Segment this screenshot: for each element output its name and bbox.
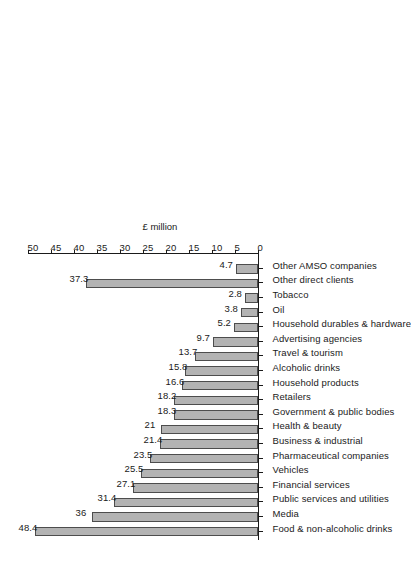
value-axis-tick-label: 10	[212, 241, 223, 252]
category-axis-tick	[259, 341, 263, 342]
category-axis-label: Vehicles	[273, 464, 309, 475]
category-axis-label: Financial services	[273, 478, 350, 489]
bar	[213, 337, 258, 347]
bar	[141, 469, 258, 479]
bar	[160, 439, 258, 449]
category-axis-label: Pharmaceutical companies	[273, 449, 389, 460]
category-axis-label: Alcoholic drinks	[273, 362, 341, 373]
category-axis-label: Government & public bodies	[273, 405, 395, 416]
category-axis-label: Business & industrial	[273, 435, 363, 446]
bar	[114, 498, 258, 508]
bar	[150, 454, 258, 464]
value-axis-tick-label: 35	[97, 241, 108, 252]
bar-value-label: 4.7	[220, 258, 234, 269]
category-axis-label: Household products	[273, 376, 359, 387]
value-axis-tick-label: 5	[235, 241, 240, 252]
bar-value-label: 18.2	[158, 390, 177, 401]
bar-value-label: 21	[145, 419, 156, 430]
bar	[174, 396, 258, 406]
bar-value-label: 36	[76, 507, 87, 518]
bar	[133, 483, 258, 493]
bar	[182, 381, 258, 391]
bar-value-label: 37.3	[70, 273, 89, 284]
value-axis-title: £ million	[143, 220, 178, 231]
category-axis-tick	[259, 531, 263, 532]
bar-value-label: 18.3	[157, 404, 176, 415]
category-axis-label: Advertising agencies	[273, 332, 363, 343]
bar	[185, 366, 258, 376]
bar	[92, 512, 258, 522]
value-axis-tick-label: 0	[258, 241, 263, 252]
bar	[174, 410, 258, 420]
bar	[245, 293, 258, 303]
category-axis-tick	[259, 443, 263, 444]
bar-value-label: 21.4	[143, 434, 162, 445]
category-axis-label: Retailers	[273, 391, 311, 402]
bar-value-label: 16.6	[165, 375, 184, 386]
value-axis-tick-label: 30	[120, 241, 131, 252]
category-axis-tick	[259, 326, 263, 327]
value-axis-tick-label: 45	[51, 241, 62, 252]
bar	[234, 323, 258, 333]
category-axis-label: Other AMSO companies	[273, 259, 377, 270]
category-axis-label: Household durables & hardware	[273, 318, 411, 329]
category-axis-label: Tobacco	[273, 289, 309, 300]
category-axis-tick	[259, 487, 263, 488]
category-axis-label: Food & non-alcoholic drinks	[273, 522, 393, 533]
bar-value-label: 5.2	[218, 317, 232, 328]
bar-value-label: 2.8	[229, 288, 243, 299]
category-axis-tick	[259, 516, 263, 517]
category-axis-tick	[259, 429, 263, 430]
category-axis-label: Media	[273, 508, 299, 519]
category-axis-label: Travel & tourism	[273, 347, 343, 358]
bar	[86, 279, 258, 289]
bar	[35, 527, 258, 537]
category-axis-tick	[259, 472, 263, 473]
category-axis-label: Public services and utilities	[273, 493, 389, 504]
value-axis-tick-label: 15	[189, 241, 200, 252]
bar-value-label: 9.7	[197, 331, 211, 342]
value-axis-tick-label: 50	[28, 241, 39, 252]
bar-value-label: 23.5	[133, 448, 152, 459]
category-axis-tick	[259, 370, 263, 371]
category-axis-tick	[259, 268, 263, 269]
bar-value-label: 3.8	[224, 302, 238, 313]
category-axis-tick	[259, 297, 263, 298]
bar	[161, 425, 258, 435]
category-axis-tick	[259, 414, 263, 415]
bar	[236, 264, 258, 274]
category-axis-tick	[259, 458, 263, 459]
bar-value-label: 13.7	[178, 346, 197, 357]
value-axis-tick-label: 40	[74, 241, 85, 252]
category-axis-label: Oil	[273, 303, 285, 314]
value-axis-tick-label: 20	[166, 241, 177, 252]
bar-value-label: 48.4	[19, 521, 38, 532]
bar	[195, 352, 258, 362]
bar-value-label: 25.5	[124, 463, 143, 474]
category-axis-label: Other direct clients	[273, 274, 354, 285]
bar-value-label: 31.4	[97, 492, 116, 503]
category-axis-label: Health & beauty	[273, 420, 342, 431]
category-axis-tick	[259, 399, 263, 400]
category-axis-tick	[259, 283, 263, 284]
category-axis-tick	[259, 356, 263, 357]
category-axis-tick	[259, 502, 263, 503]
bar-value-label: 27.1	[117, 477, 136, 488]
bar	[241, 308, 258, 318]
category-axis-tick	[259, 385, 263, 386]
category-axis-tick	[259, 312, 263, 313]
value-axis-tick-label: 25	[143, 241, 154, 252]
bar-value-label: 15.8	[169, 361, 188, 372]
